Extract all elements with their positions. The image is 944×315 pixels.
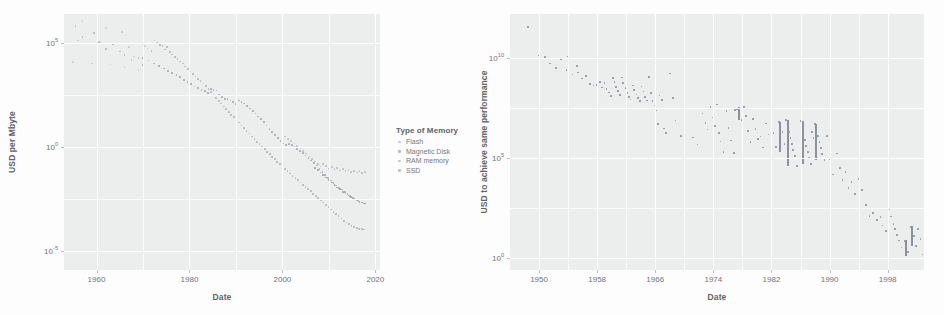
data-point bbox=[893, 223, 895, 225]
y-tick-mark bbox=[507, 158, 510, 159]
left-plot-area bbox=[64, 14, 380, 270]
data-point bbox=[197, 78, 199, 80]
data-point bbox=[269, 128, 271, 130]
gridline-vertical bbox=[539, 14, 540, 270]
data-point bbox=[177, 58, 179, 60]
data-point bbox=[276, 161, 278, 163]
data-point bbox=[166, 46, 168, 48]
data-point bbox=[200, 80, 202, 82]
y-tick-label: 1010 bbox=[472, 54, 504, 63]
data-point bbox=[826, 135, 828, 137]
data-point bbox=[633, 89, 635, 91]
data-point bbox=[848, 187, 850, 189]
data-point bbox=[555, 67, 557, 69]
data-point bbox=[121, 31, 123, 33]
data-point bbox=[333, 211, 335, 213]
y-tick-label: 10-5 bbox=[0, 247, 58, 256]
data-point bbox=[796, 165, 798, 167]
data-point bbox=[549, 63, 551, 65]
data-point bbox=[865, 204, 867, 206]
data-point bbox=[335, 213, 337, 215]
data-point bbox=[652, 100, 654, 102]
data-point bbox=[159, 44, 161, 46]
data-point bbox=[325, 204, 327, 206]
data-point bbox=[119, 51, 121, 53]
gridline-horizontal-minor bbox=[510, 108, 924, 109]
gridline-vertical bbox=[597, 14, 598, 270]
data-point bbox=[608, 92, 610, 94]
data-point bbox=[894, 228, 896, 230]
y-tick-mark bbox=[507, 258, 510, 259]
data-point bbox=[176, 74, 178, 76]
gridline-vertical-minor bbox=[568, 14, 569, 270]
data-point bbox=[93, 32, 95, 34]
gridline-vertical bbox=[830, 14, 831, 270]
data-point bbox=[353, 170, 355, 172]
x-tick-label: 1998 bbox=[879, 275, 897, 284]
data-point bbox=[669, 73, 671, 75]
left-y-axis-title: USD per Mbyte bbox=[7, 111, 17, 173]
data-point bbox=[917, 228, 919, 230]
gridline-vertical bbox=[189, 14, 190, 270]
data-point bbox=[752, 118, 754, 120]
x-tick-label: 1980 bbox=[181, 275, 199, 284]
data-point bbox=[124, 66, 126, 68]
data-point bbox=[718, 132, 720, 134]
data-point bbox=[915, 245, 917, 247]
data-point bbox=[339, 170, 341, 172]
legend-item-magnetic-disk[interactable]: Magnetic Disk bbox=[396, 148, 458, 156]
legend-item-label: SSD bbox=[406, 167, 420, 175]
data-point bbox=[194, 86, 196, 88]
legend-key-icon bbox=[396, 139, 403, 146]
data-point bbox=[274, 134, 276, 136]
data-point bbox=[277, 137, 279, 139]
data-point bbox=[617, 90, 619, 92]
data-point bbox=[174, 56, 176, 58]
data-point-cluster bbox=[905, 240, 907, 256]
gridline-vertical-minor bbox=[143, 14, 144, 270]
data-point bbox=[851, 181, 853, 183]
gridline-vertical-minor bbox=[859, 14, 860, 270]
data-point bbox=[334, 168, 336, 170]
data-point bbox=[300, 182, 302, 184]
data-point-cluster bbox=[787, 120, 789, 166]
x-tick-label: 1982 bbox=[763, 275, 781, 284]
data-point bbox=[158, 65, 160, 67]
data-point bbox=[898, 240, 900, 242]
data-point bbox=[302, 152, 304, 154]
legend-item-flash[interactable]: Flash bbox=[396, 138, 458, 146]
x-tick-label: 1966 bbox=[646, 275, 664, 284]
data-point bbox=[223, 106, 225, 108]
data-point bbox=[817, 135, 819, 137]
data-point bbox=[342, 191, 344, 193]
x-tick-mark bbox=[713, 270, 714, 273]
data-point bbox=[299, 150, 301, 152]
data-point bbox=[238, 122, 240, 124]
data-point bbox=[896, 234, 898, 236]
data-point bbox=[128, 46, 130, 48]
data-point bbox=[274, 158, 276, 160]
data-point bbox=[577, 72, 579, 74]
data-point bbox=[890, 216, 892, 218]
gridline-vertical bbox=[282, 14, 283, 270]
data-point bbox=[91, 63, 93, 65]
data-point bbox=[271, 156, 273, 158]
legend-key-icon bbox=[396, 148, 403, 155]
data-point bbox=[639, 100, 641, 102]
legend-item-ssd[interactable]: SSD bbox=[396, 167, 458, 175]
data-point bbox=[672, 97, 674, 99]
data-point bbox=[221, 96, 223, 98]
data-point bbox=[845, 171, 847, 173]
data-point bbox=[252, 110, 254, 112]
gridline-vertical-minor bbox=[329, 14, 330, 270]
x-tick-mark bbox=[539, 270, 540, 273]
data-point bbox=[249, 108, 251, 110]
data-point bbox=[922, 254, 924, 256]
data-point bbox=[604, 82, 606, 84]
data-point bbox=[224, 98, 226, 100]
data-point bbox=[901, 247, 903, 249]
data-point bbox=[692, 137, 694, 139]
data-point bbox=[723, 151, 725, 153]
legend-item-ram-memory[interactable]: RAM memory bbox=[396, 157, 458, 165]
data-point bbox=[238, 100, 240, 102]
